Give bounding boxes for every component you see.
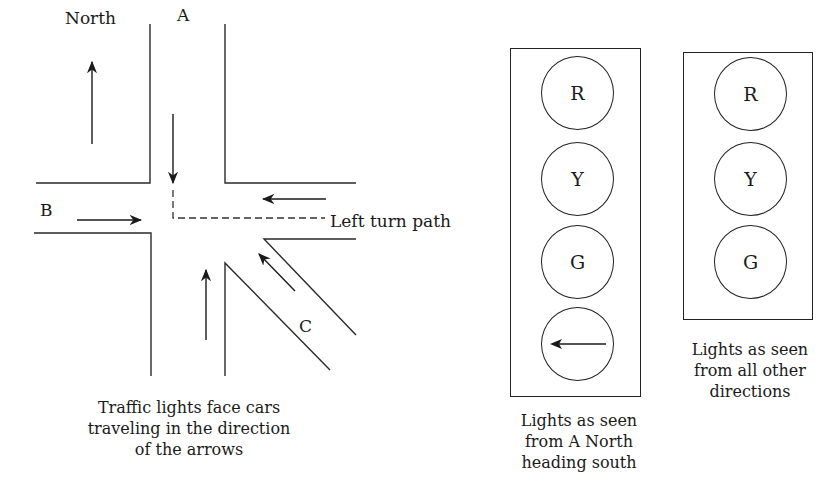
signal-a-left-arrow-lamp (541, 307, 614, 381)
road-label-c: C (299, 316, 312, 336)
signal-other-red-lamp: R (714, 57, 787, 131)
left-arrow-icon (548, 334, 608, 354)
intersection-caption: Traffic lights face cars traveling in th… (64, 397, 314, 460)
left-turn-path (173, 190, 325, 218)
direction-arrows (77, 62, 326, 340)
signal-a-yellow-lamp: Y (541, 142, 614, 216)
signal-other-green-lamp: G (714, 225, 787, 299)
signal-a-red-lamp: R (541, 56, 614, 130)
signal-a-caption: Lights as seen from A North heading sout… (505, 410, 653, 473)
road-label-b: B (40, 200, 53, 220)
left-turn-label: Left turn path (330, 211, 451, 231)
signal-other-yellow-lamp: Y (714, 142, 787, 216)
road-label-a: A (177, 5, 189, 25)
northwest-arrow-icon (259, 254, 295, 291)
signal-other-caption: Lights as seen from all other directions (676, 339, 824, 402)
signal-a-green-lamp: G (541, 225, 614, 299)
compass-label: North (65, 8, 116, 28)
